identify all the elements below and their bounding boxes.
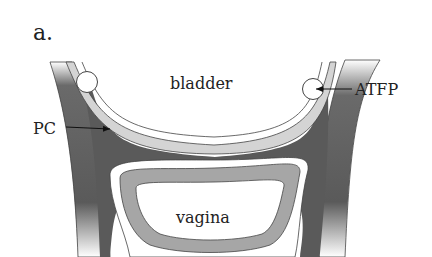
vagina-label: vagina: [175, 208, 230, 227]
left-atfp-circle: [77, 72, 98, 93]
bladder-label: bladder: [170, 74, 233, 93]
panel-label: a.: [33, 20, 53, 45]
anatomy-diagram: a. bladder vagina PC ATFP: [0, 0, 432, 257]
pc-label: PC: [33, 119, 56, 138]
atfp-label: ATFP: [354, 80, 398, 99]
